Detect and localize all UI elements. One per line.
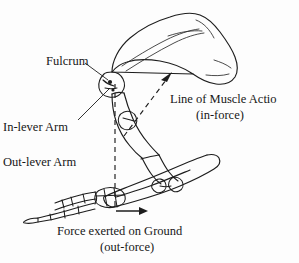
pelvis-interior-lines bbox=[122, 20, 231, 76]
out-force-arrowhead bbox=[139, 207, 148, 215]
anatomical-lever-diagram: Fulcrum In-lever Arm Out-lever Arm Line … bbox=[0, 0, 299, 263]
label-fulcrum: Fulcrum bbox=[46, 54, 88, 68]
label-out-lever-arm: Out-lever Arm bbox=[3, 155, 76, 169]
in-lever-leader-line bbox=[78, 88, 110, 120]
label-force-exerted-on-ground: Force exerted on Ground bbox=[57, 224, 182, 238]
in-force-dashed-line bbox=[124, 80, 166, 136]
pelvis-bone-outline bbox=[112, 13, 237, 84]
tarsal-phalanx-block bbox=[95, 188, 126, 208]
label-line-of-muscle-action: Line of Muscle Actio bbox=[170, 92, 277, 106]
metatarsus-bone bbox=[104, 155, 220, 207]
toe-phalanges bbox=[24, 192, 97, 223]
knee-joint bbox=[118, 111, 137, 130]
label-in-force: (in-force) bbox=[196, 108, 244, 122]
label-in-lever-arm: In-lever Arm bbox=[3, 120, 68, 134]
label-out-force: (out-force) bbox=[100, 240, 154, 254]
fulcrum-leader-line bbox=[85, 63, 108, 80]
